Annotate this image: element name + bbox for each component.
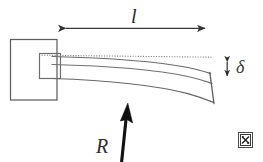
broken-image-glyph <box>240 134 251 146</box>
beam-end-face <box>210 72 214 103</box>
broken-image-icon <box>238 132 253 148</box>
length-label: l <box>131 6 137 26</box>
wall-support <box>11 40 58 101</box>
figure-canvas: l δ R <box>0 0 263 162</box>
beam-bottom-edge <box>52 79 214 103</box>
deflection-label: δ <box>236 58 244 76</box>
force-label: R <box>96 136 108 156</box>
force-arrow <box>120 103 132 162</box>
